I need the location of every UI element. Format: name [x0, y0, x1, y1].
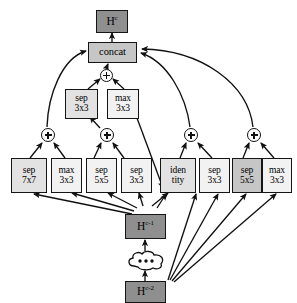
state-node-prev2: Hc-2 — [125, 281, 166, 303]
op-line2: 5x5 — [95, 176, 109, 186]
op-node-mid-sep-3x3: sep 3x3 — [65, 89, 98, 119]
op-line2: 3x3 — [75, 104, 89, 114]
concat-node: concat — [88, 42, 137, 63]
edge-sep3x3b-to-add3 — [198, 143, 212, 158]
op-node-sep-3x3-b: sep 3x3 — [199, 158, 230, 193]
edge-hc2-to-sep5x5b — [172, 194, 246, 281]
edge-hc1-to-sep7x7 — [34, 194, 132, 214]
op-line2: 3x3 — [60, 176, 74, 186]
add-node-1 — [41, 128, 55, 142]
edge-hc2-to-sep3x3b — [170, 194, 218, 280]
edge-hc2-to-identity — [168, 194, 196, 280]
output-state-node: Hc — [96, 10, 128, 33]
edge-add4-to-concat — [142, 49, 253, 127]
state-prev2-label: Hc-2 — [137, 286, 154, 298]
op-line2: 3x3 — [116, 104, 130, 114]
edge-hc1-to-max3x3a — [72, 193, 134, 211]
edge-sep5x5a-to-add2 — [94, 143, 101, 158]
edge-hc2-to-max3x3b — [174, 194, 276, 282]
op-line2: 3x3 — [130, 176, 144, 186]
edge-hc1-to-sep5x5a — [108, 193, 137, 208]
edge-identity-to-add3 — [180, 143, 186, 158]
op-node-sep-5x5-b: sep 5x5 — [232, 158, 262, 193]
op-node-identity: iden tity — [160, 158, 196, 193]
op-node-sep-5x5-a: sep 5x5 — [86, 158, 117, 193]
nas-cell-diagram: Hc concat sep 3x3 max 3x3 sep 7x7 max 3x… — [0, 0, 297, 303]
add-node-3 — [184, 128, 198, 142]
op-node-max-3x3-a: max 3x3 — [51, 158, 82, 193]
edge-max3x3b-to-add4 — [261, 143, 274, 158]
concat-label: concat — [99, 47, 126, 58]
edge-add3-to-concat — [141, 53, 190, 127]
op-line2: 7x7 — [22, 176, 36, 186]
op-line2: 5x5 — [240, 176, 254, 186]
state-node-prev1: Hc-1 — [125, 214, 166, 239]
output-state-label: Hc — [106, 16, 117, 28]
op-node-sep-7x7: sep 7x7 — [11, 158, 47, 193]
edge-hc1-to-extra — [157, 194, 166, 208]
edge-midsep-to-addtop — [88, 79, 100, 89]
add-node-top — [100, 69, 113, 82]
op-node-mid-max-3x3: max 3x3 — [107, 89, 139, 119]
ellipsis-cloud-icon — [126, 250, 166, 271]
op-line2: 3x3 — [208, 176, 222, 186]
edge-sep7x7-to-add1 — [30, 143, 42, 158]
edge-sep5x5b-to-add4 — [243, 143, 249, 158]
op-line2: tity — [172, 176, 184, 186]
edge-sep3x3-to-add2 — [113, 143, 124, 158]
op-node-sep-3x3: sep 3x3 — [121, 158, 152, 193]
edge-midmax-to-addtop — [113, 79, 124, 89]
edge-max3x3a-to-add1 — [54, 143, 65, 158]
edge-hc1-to-identity — [152, 193, 168, 206]
op-line2: 3x3 — [270, 176, 284, 186]
add-node-4 — [247, 128, 261, 142]
edge-hc1-to-sep3x3 — [139, 193, 143, 206]
add-node-2 — [100, 128, 114, 142]
op-node-max-3x3-b: max 3x3 — [262, 158, 292, 193]
state-prev1-label: Hc-1 — [137, 221, 154, 233]
